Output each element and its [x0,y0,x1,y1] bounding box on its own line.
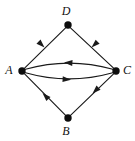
node-dot-c [112,67,119,74]
arrowhead-group [36,40,100,101]
node-label-c: C [123,63,132,77]
arrowhead-a-to-c [64,60,73,66]
arrowhead-c-to-a [62,76,71,82]
node-dot-d [64,21,71,28]
arrowhead-c-to-d [90,40,100,50]
edge-d-to-a [25,28,66,68]
node-label-b: B [62,124,70,138]
node-dot-a [18,67,25,74]
graph-canvas: D A C B [0,0,135,141]
edge-group [25,28,114,116]
edge-c-to-d [71,28,114,68]
node-group [18,21,119,121]
edge-c-to-a-lower [26,73,113,79]
node-label-a: A [4,63,13,77]
directed-graph-figure: D A C B [0,0,135,141]
node-dot-b [64,114,71,121]
node-label-d: D [61,4,71,18]
arrowhead-a-to-b [40,91,50,101]
edge-b-to-c [71,74,114,116]
